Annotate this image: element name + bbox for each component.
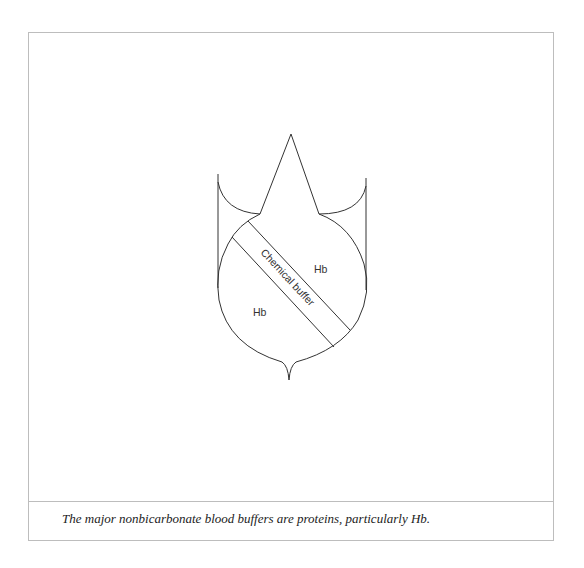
right-top-arc (319, 186, 366, 214)
chemical-buffer-label: Chemical buffer (259, 246, 318, 308)
band-lower-line (232, 237, 334, 347)
apex-spike (260, 134, 319, 214)
body-outline (218, 214, 367, 380)
hb-label-right: Hb (314, 263, 328, 275)
left-top-arc (218, 182, 260, 214)
buffer-diagram: Hb Hb Chemical buffer (0, 0, 584, 568)
hb-label-left: Hb (253, 306, 267, 318)
